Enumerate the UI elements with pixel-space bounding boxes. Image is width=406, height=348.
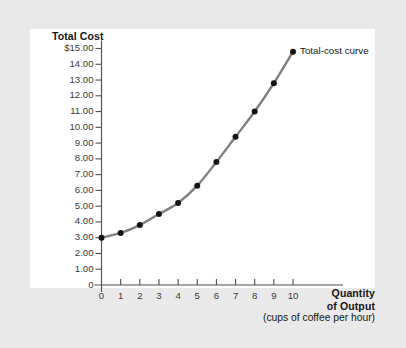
- y-axis-tick-label: $15.00: [34, 42, 94, 53]
- y-axis-tick-label: 11.00: [34, 105, 94, 116]
- total-cost-curve-line: [102, 52, 294, 238]
- y-axis-tick-label: 4.00: [34, 215, 94, 226]
- y-axis-tick-label: 2.00: [34, 247, 94, 258]
- x-axis-title-line1: Quantity: [327, 287, 375, 300]
- x-axis-title-line2: of Output: [327, 300, 375, 313]
- curve-annotation-label: Total-cost curve: [300, 45, 369, 56]
- y-axis-tick-label: 9.00: [34, 137, 94, 148]
- y-axis-tick-label: 3.00: [34, 231, 94, 242]
- y-axis-tick-label: 5.00: [34, 200, 94, 211]
- y-axis-tick-label: 12.00: [34, 89, 94, 100]
- y-axis-tick-label: 1.00: [34, 263, 94, 274]
- x-axis-tick-label: 10: [282, 290, 304, 301]
- y-axis-tick-label: 7.00: [34, 168, 94, 179]
- y-axis-tick-label: 14.00: [34, 58, 94, 69]
- y-axis-tick-label: 6.00: [34, 184, 94, 195]
- x-axis-title: Quantity of Output: [327, 287, 375, 312]
- y-axis-tick-label: 13.00: [34, 74, 94, 85]
- data-point-markers: [99, 49, 297, 241]
- x-axis-units-label: (cups of coffee per hour): [263, 312, 375, 323]
- y-axis-title: Total Cost: [52, 30, 104, 42]
- y-axis-tick-label: 10.00: [34, 121, 94, 132]
- y-axis-tick-label: 8.00: [34, 152, 94, 163]
- axes: [95, 41, 344, 293]
- total-cost-chart: Total Cost Quantity of Output (cups of c…: [0, 0, 406, 348]
- y-axis-tick-label: 0: [34, 279, 94, 290]
